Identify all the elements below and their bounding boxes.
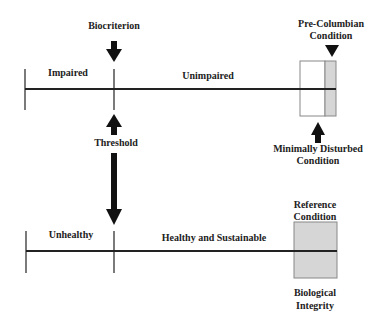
unhealthy-label: Unhealthy [49,229,93,241]
impaired-label: Impaired [48,67,88,79]
threshold-down-arrow-icon [106,153,122,225]
pre-columbian-arrow-icon [325,45,339,57]
minimally-disturbed-arrow-icon [311,122,325,143]
reference-condition-label-line1: Reference [294,199,337,211]
biocriterion-label: Biocriterion [88,20,140,32]
pre-columbian-label-line1: Pre-Columbian [298,18,364,30]
healthy-sustainable-label: Healthy and Sustainable [162,232,266,244]
threshold-up-arrow-icon [106,114,122,135]
biological-integrity-label-line1: Biological [294,287,336,299]
biocriterion-arrow-icon [106,41,122,62]
unimpaired-label: Unimpaired [182,70,234,82]
threshold-label: Threshold [94,137,138,149]
diagram-canvas: Biocriterion Impaired Unimpaired Pre-Col… [0,0,384,324]
reference-condition-label-line2: Condition [294,211,337,223]
minimally-disturbed-label-line1: Minimally Disturbed [273,143,363,155]
pre-columbian-label-line2: Condition [310,30,353,42]
minimally-disturbed-label-line2: Condition [297,155,340,167]
biological-integrity-label-line2: Integrity [296,300,334,312]
